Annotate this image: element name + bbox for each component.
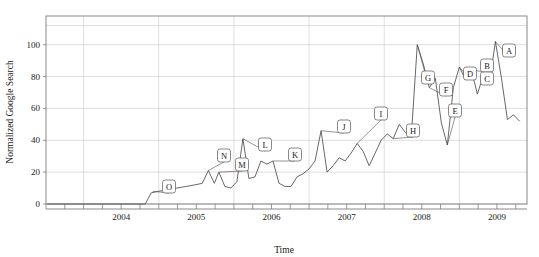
- svg-text:N: N: [221, 151, 227, 161]
- svg-text:20: 20: [31, 167, 41, 177]
- svg-text:I: I: [380, 109, 383, 119]
- svg-text:60: 60: [31, 103, 41, 113]
- svg-text:2007: 2007: [338, 212, 357, 222]
- svg-text:100: 100: [27, 40, 41, 50]
- svg-text:C: C: [484, 74, 490, 84]
- svg-text:2008: 2008: [413, 212, 432, 222]
- svg-text:H: H: [410, 126, 416, 136]
- svg-text:80: 80: [31, 72, 41, 82]
- svg-text:O: O: [166, 182, 172, 192]
- svg-text:D: D: [467, 69, 473, 79]
- chart-figure: ONMLKJIHGFEDBCA 020406080100 20042005200…: [0, 0, 539, 257]
- normalized-google-search-line-chart: ONMLKJIHGFEDBCA 020406080100 20042005200…: [0, 0, 539, 257]
- svg-text:E: E: [452, 106, 457, 116]
- svg-text:L: L: [262, 140, 267, 150]
- svg-text:2009: 2009: [488, 212, 507, 222]
- y-axis-title: Normalized Google Search: [5, 60, 15, 164]
- svg-text:F: F: [444, 85, 449, 95]
- svg-text:0: 0: [36, 199, 41, 209]
- svg-text:M: M: [238, 160, 246, 170]
- svg-text:2005: 2005: [187, 212, 206, 222]
- svg-text:K: K: [292, 150, 299, 160]
- svg-text:40: 40: [31, 135, 41, 145]
- svg-text:2004: 2004: [112, 212, 131, 222]
- svg-text:A: A: [506, 46, 513, 56]
- svg-text:B: B: [484, 61, 490, 71]
- svg-text:2006: 2006: [262, 212, 281, 222]
- x-axis-title: Time: [274, 245, 294, 255]
- svg-text:G: G: [425, 73, 431, 83]
